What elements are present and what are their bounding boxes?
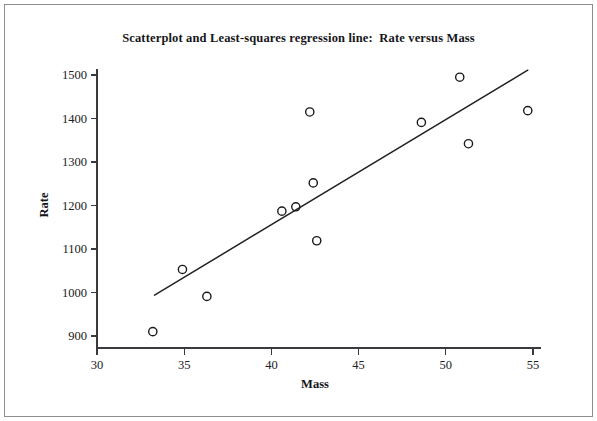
- x-tick-label: 50: [440, 358, 453, 372]
- y-tick-label: 1300: [62, 155, 87, 169]
- data-point: [149, 328, 157, 336]
- data-point: [306, 108, 314, 116]
- data-point: [178, 265, 186, 273]
- data-point: [464, 140, 472, 148]
- y-tick-label: 1200: [62, 199, 87, 213]
- x-axis-label: Mass: [301, 377, 329, 391]
- y-tick-label: 900: [68, 329, 87, 343]
- scatter-points-group: [149, 73, 532, 336]
- y-tick-label: 1000: [62, 286, 87, 300]
- data-point: [456, 73, 464, 81]
- x-tick-label: 45: [352, 358, 365, 372]
- x-tick-label: 40: [265, 358, 278, 372]
- y-axis-tick-labels: 900 1000 1100 1200 1300 1400 1500: [62, 68, 87, 343]
- data-point: [524, 107, 532, 115]
- y-tick-label: 1500: [62, 68, 87, 82]
- x-tick-label: 30: [91, 358, 104, 372]
- y-axis-ticks: [91, 75, 97, 336]
- data-point: [417, 118, 425, 126]
- x-tick-label: 35: [178, 358, 191, 372]
- y-tick-label: 1100: [62, 242, 87, 256]
- scatterplot-figure: Scatterplot and Least-squares regression…: [0, 0, 597, 421]
- chart-plot-area: 900 1000 1100 1200 1300 1400 1500 30 35 …: [0, 0, 597, 421]
- x-axis-tick-labels: 30 35 40 45 50 55: [91, 358, 540, 372]
- data-point: [313, 237, 321, 245]
- data-point: [309, 179, 317, 187]
- y-tick-label: 1400: [62, 112, 87, 126]
- data-point: [278, 207, 286, 215]
- regression-line: [155, 70, 528, 295]
- x-tick-label: 55: [527, 358, 540, 372]
- x-axis-ticks: [97, 348, 533, 355]
- data-point: [203, 292, 211, 300]
- y-axis-label: Rate: [37, 192, 51, 217]
